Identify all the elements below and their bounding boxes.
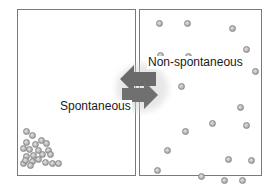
particle (184, 20, 191, 27)
particle (47, 151, 54, 158)
particle (229, 25, 236, 32)
particle (164, 147, 171, 154)
particle (239, 177, 246, 184)
particle (42, 159, 49, 166)
particle (35, 156, 42, 163)
particle (22, 157, 29, 164)
non-spontaneous-label: Non-spontaneous (147, 56, 244, 69)
particle (154, 167, 161, 174)
particle (225, 156, 232, 163)
particle (243, 122, 250, 129)
particle (248, 157, 255, 164)
spontaneous-label: Spontaneous (59, 100, 132, 113)
particle (221, 177, 228, 184)
particle (243, 46, 250, 53)
particle (198, 173, 205, 180)
particle (55, 160, 62, 167)
particle (252, 68, 259, 75)
particle (43, 140, 50, 147)
particle (29, 132, 36, 139)
particle (178, 83, 185, 90)
particle (27, 162, 34, 169)
particle (237, 104, 244, 111)
particle (209, 120, 216, 127)
particle (182, 128, 189, 135)
particle (156, 20, 163, 27)
